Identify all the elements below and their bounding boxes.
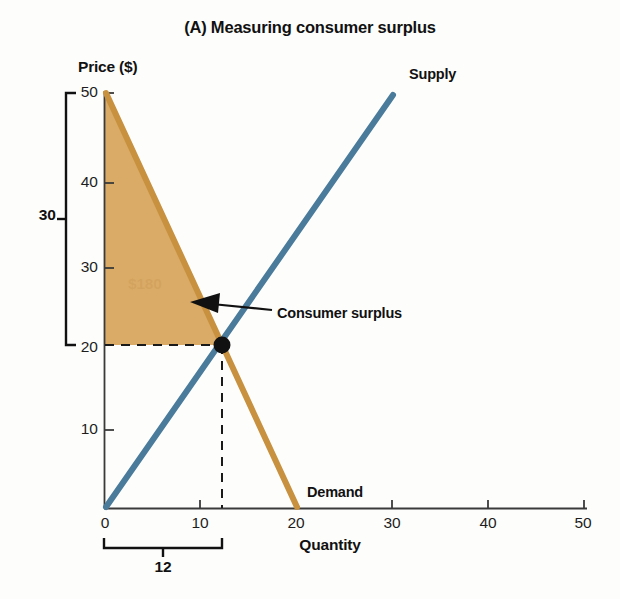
- chart-figure: (A) Measuring consumer surplus Price ($)…: [0, 0, 620, 599]
- equilibrium-point-marker: [214, 337, 231, 354]
- y-axis-bracket: [66, 93, 76, 345]
- x-axis-bracket: [104, 538, 222, 548]
- plot-area: [0, 0, 620, 599]
